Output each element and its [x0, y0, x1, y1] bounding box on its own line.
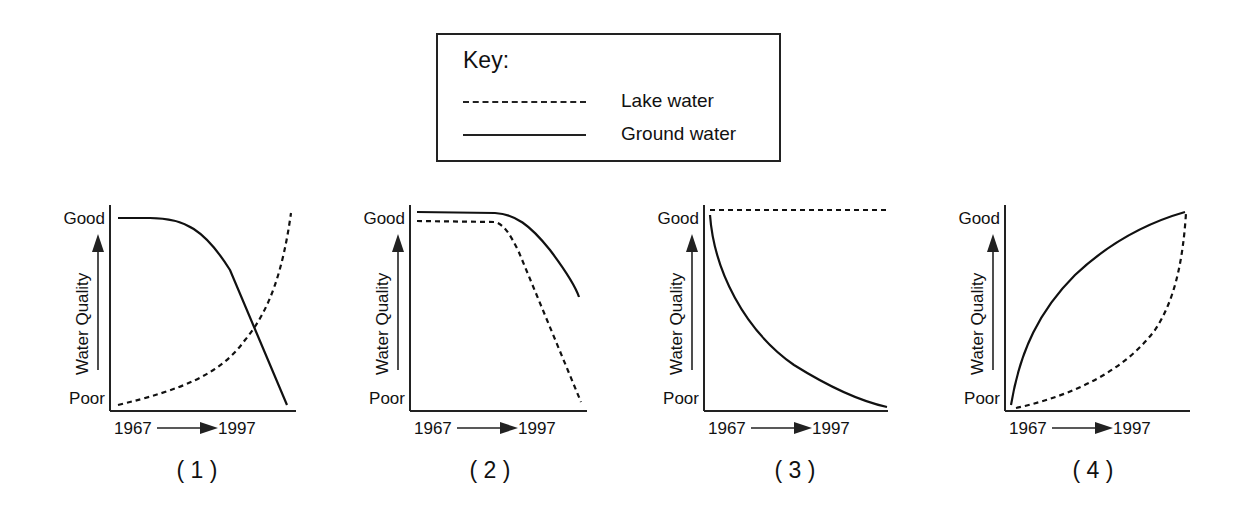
y-tick-poor: Poor	[663, 389, 699, 408]
legend-title: Key:	[463, 47, 509, 74]
y-tick-good: Good	[363, 209, 405, 228]
figure-label-1: ( 1 )	[157, 457, 237, 484]
lake-water-line	[1016, 213, 1186, 408]
lake-water-line	[417, 221, 581, 402]
chart-4: Good Poor Water Quality 1967 1997	[895, 190, 1205, 440]
legend-label: Lake water	[621, 90, 714, 112]
chart-3: Good Poor Water Quality 1967 1997	[594, 190, 904, 440]
x-axis-arrow-icon	[751, 422, 812, 434]
dashed-line-swatch	[463, 101, 586, 103]
x-start-label: 1967	[708, 419, 746, 438]
ground-water-line	[118, 218, 287, 405]
y-axis-arrow-icon	[92, 234, 104, 370]
y-tick-good: Good	[958, 209, 1000, 228]
y-tick-poor: Poor	[369, 389, 405, 408]
axes	[410, 205, 587, 411]
figure-label-3: ( 3 )	[755, 457, 835, 484]
y-axis-label: Water Quality	[373, 272, 392, 375]
legend-entry-ground-water: Ground water	[463, 123, 763, 147]
ground-water-line	[710, 215, 887, 407]
chart-2: Good Poor Water Quality 1967 1997	[300, 190, 610, 440]
y-axis-arrow-icon	[392, 234, 404, 370]
x-start-label: 1967	[1009, 419, 1047, 438]
x-end-label: 1997	[218, 419, 256, 438]
lake-water-line	[118, 213, 291, 405]
legend-entry-lake-water: Lake water	[463, 90, 763, 114]
y-tick-good: Good	[657, 209, 699, 228]
x-start-label: 1967	[114, 419, 152, 438]
y-tick-poor: Poor	[69, 389, 105, 408]
x-axis-arrow-icon	[457, 422, 518, 434]
axes	[1005, 205, 1190, 411]
figure-label-2: ( 2 )	[450, 457, 530, 484]
solid-line-swatch	[463, 134, 586, 136]
x-end-label: 1997	[812, 419, 850, 438]
y-tick-good: Good	[63, 209, 105, 228]
y-axis-label: Water Quality	[667, 272, 686, 375]
x-end-label: 1997	[1113, 419, 1151, 438]
ground-water-line	[417, 212, 579, 297]
ground-water-line	[1011, 212, 1185, 405]
chart-1: Good Poor Water Quality 1967 1997	[0, 190, 310, 440]
y-axis-label: Water Quality	[968, 272, 987, 375]
y-axis-label: Water Quality	[73, 272, 92, 375]
y-axis-arrow-icon	[686, 234, 698, 370]
legend-label: Ground water	[621, 123, 736, 145]
x-axis-arrow-icon	[157, 422, 218, 434]
y-tick-poor: Poor	[964, 389, 1000, 408]
axes	[704, 205, 888, 411]
legend-box: Key: Lake water Ground water	[436, 33, 781, 162]
figure-label-4: ( 4 )	[1053, 457, 1133, 484]
x-axis-arrow-icon	[1052, 422, 1113, 434]
y-axis-arrow-icon	[987, 234, 999, 370]
x-end-label: 1997	[518, 419, 556, 438]
x-start-label: 1967	[414, 419, 452, 438]
